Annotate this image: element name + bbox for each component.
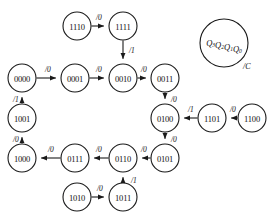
transition-edge: /0 bbox=[92, 184, 104, 198]
edge-label: /1 bbox=[12, 95, 19, 104]
state-node-0100[interactable]: 0100 bbox=[151, 104, 179, 132]
transition-edge: /0 bbox=[94, 145, 108, 159]
state-node-1101[interactable]: 1101 bbox=[198, 104, 226, 132]
state-node-0000[interactable]: 0000 bbox=[8, 64, 36, 92]
state-node-label: 1110 bbox=[69, 22, 85, 32]
state-node-label: 1111 bbox=[115, 22, 130, 32]
transition-edge: /1 bbox=[12, 95, 22, 104]
transition-edge: /0 bbox=[90, 65, 104, 79]
transition-edge: /0 bbox=[165, 93, 177, 104]
legend-layer: Q3Q2Q1Q0/C bbox=[200, 19, 251, 71]
edge-label: /1 bbox=[128, 46, 135, 55]
state-node-label: 0010 bbox=[115, 74, 131, 84]
transition-edge: /1 bbox=[184, 105, 197, 119]
transition-edge: /1 bbox=[123, 41, 135, 59]
transition-edge: /0 bbox=[37, 65, 56, 79]
state-node-0001[interactable]: 0001 bbox=[61, 64, 89, 92]
legend-output-label: /C bbox=[242, 62, 251, 71]
state-node-label: 1010 bbox=[69, 193, 85, 203]
transition-edge: /0 bbox=[229, 105, 238, 119]
state-node-0011[interactable]: 0011 bbox=[151, 64, 179, 92]
state-node-1010[interactable]: 1010 bbox=[63, 183, 91, 211]
state-node-label: 1011 bbox=[115, 193, 131, 203]
state-node-1111[interactable]: 1111 bbox=[109, 12, 137, 40]
state-node-0010[interactable]: 0010 bbox=[109, 64, 137, 92]
state-node-1100[interactable]: 1100 bbox=[238, 104, 266, 132]
edge-label: /1 bbox=[130, 176, 137, 185]
state-node-label: 1101 bbox=[204, 114, 220, 124]
edge-label: /0 bbox=[95, 13, 102, 22]
state-diagram-svg: /0/1/0/0/0/0/0/0/1/0/0/0/0/1/0/1 1110111… bbox=[0, 0, 275, 220]
legend-state-key: Q3Q2Q1Q0/C bbox=[200, 19, 251, 71]
edge-label: /0 bbox=[95, 65, 102, 74]
state-node-label: 1001 bbox=[14, 114, 30, 124]
state-node-label: 1000 bbox=[14, 154, 30, 164]
state-node-label: 0100 bbox=[157, 114, 173, 124]
edge-label: /0 bbox=[96, 184, 103, 193]
transition-edge: /0 bbox=[140, 145, 151, 159]
state-node-0111[interactable]: 0111 bbox=[61, 144, 89, 172]
transition-edge: /0 bbox=[165, 133, 177, 144]
state-node-1000[interactable]: 1000 bbox=[8, 144, 36, 172]
edge-label: /0 bbox=[95, 145, 102, 154]
edge-label: /1 bbox=[187, 105, 194, 114]
state-node-label: 0001 bbox=[67, 74, 83, 84]
state-node-label: 1100 bbox=[244, 114, 260, 124]
state-node-1001[interactable]: 1001 bbox=[8, 104, 36, 132]
transition-edge: /0 bbox=[12, 135, 22, 144]
state-node-label: 0111 bbox=[67, 154, 83, 164]
transition-edge: /0 bbox=[138, 65, 148, 79]
state-node-0101[interactable]: 0101 bbox=[151, 144, 179, 172]
state-node-label: 0110 bbox=[115, 154, 131, 164]
state-diagram-canvas: /0/1/0/0/0/0/0/0/1/0/0/0/0/1/0/1 1110111… bbox=[0, 0, 275, 220]
edge-label: /0 bbox=[170, 135, 177, 144]
state-node-0110[interactable]: 0110 bbox=[109, 144, 137, 172]
state-node-1110[interactable]: 1110 bbox=[63, 12, 91, 40]
edge-label: /0 bbox=[170, 95, 177, 104]
state-node-1011[interactable]: 1011 bbox=[109, 183, 137, 211]
edge-label: /0 bbox=[229, 105, 236, 114]
state-node-label: 0000 bbox=[14, 74, 30, 84]
edge-label: /0 bbox=[44, 65, 51, 74]
edge-label: /0 bbox=[140, 145, 147, 154]
edge-label: /0 bbox=[12, 135, 19, 144]
state-node-label: 0011 bbox=[157, 74, 173, 84]
edge-label: /0 bbox=[47, 145, 54, 154]
transition-edge: /0 bbox=[92, 13, 104, 27]
edge-label: /0 bbox=[140, 65, 147, 74]
state-node-label: 0101 bbox=[157, 154, 173, 164]
transition-edge: /0 bbox=[41, 145, 60, 159]
